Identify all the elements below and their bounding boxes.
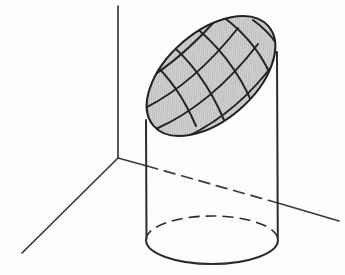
cylinder-left-wall	[146, 120, 147, 239]
cylinder-oblique-section-figure: Oblique plane section of a right circula…	[0, 0, 345, 275]
cylinder-right-wall	[277, 52, 278, 240]
figure-container: Oblique plane section of a right circula…	[0, 0, 345, 275]
figure-background	[0, 0, 345, 275]
